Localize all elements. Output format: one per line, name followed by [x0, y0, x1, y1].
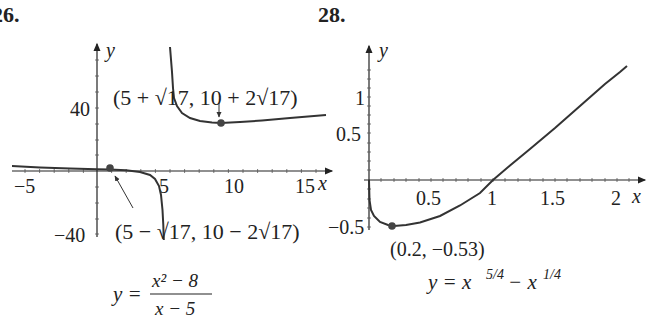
charts-canvas: y x −5 5 10 15 40 −40 (5 + √17, 10 + 2√1…	[0, 0, 661, 328]
chart-26: y x −5 5 10 15 40 −40 (5 + √17, 10 + 2√1…	[12, 39, 332, 319]
curve-function	[369, 66, 627, 226]
local-min-point	[388, 222, 396, 230]
x-tick-label: 15	[295, 175, 315, 197]
annotation-min-label: (0.2, −0.53)	[390, 238, 485, 261]
x-tick-label: 0.5	[416, 187, 441, 209]
x-tick-label: 2	[611, 187, 621, 209]
x-tick-label: 1.5	[540, 187, 565, 209]
annotation-max-label: (5 − √17, 10 − 2√17)	[115, 219, 300, 244]
y-axis-label: y	[104, 39, 115, 62]
svg-text:− x: − x	[508, 270, 537, 294]
y-axis-label: y	[377, 39, 388, 62]
equation-26: y = x² − 8 x − 5	[111, 270, 212, 319]
chart-28: y x 0.5 1 1.5 2 1 0.5 −0.5 (0.2, −0.53) …	[328, 39, 645, 294]
y-tick-label: 1	[355, 87, 365, 109]
local-max-point	[106, 164, 114, 172]
x-tick-label: −5	[14, 175, 35, 197]
y-tick-label: 0.5	[336, 123, 361, 145]
y-tick-label: 40	[70, 98, 90, 120]
annotation-min-label: (5 + √17, 10 + 2√17)	[113, 85, 298, 110]
svg-text:5/4: 5/4	[486, 267, 504, 282]
svg-text:y =: y =	[111, 282, 142, 306]
x-axis-label: x	[631, 185, 641, 207]
x-tick-label: 1	[487, 187, 497, 209]
x-tick-label: 10	[224, 175, 244, 197]
svg-text:1/4: 1/4	[543, 267, 561, 282]
y-tick-label: −0.5	[328, 216, 364, 238]
svg-text:x² − 8: x² − 8	[151, 270, 198, 291]
y-tick-label: −40	[54, 224, 85, 246]
svg-text:x − 5: x − 5	[154, 298, 195, 319]
equation-28: y = x 5/4 − x 1/4	[426, 267, 561, 294]
annotation-arrow	[115, 176, 133, 208]
x-axis-label: x	[317, 172, 327, 194]
local-min-point	[217, 119, 225, 127]
svg-text:y = x: y = x	[426, 270, 472, 294]
